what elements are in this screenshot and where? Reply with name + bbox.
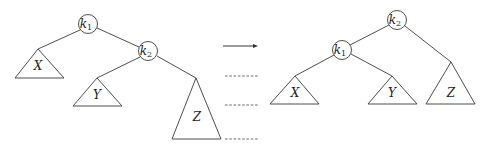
subtree-label-X: X — [290, 86, 300, 100]
subtree-label-Y: Y — [388, 86, 397, 100]
node-subscript: 1 — [341, 49, 346, 58]
subtree-label-Y: Y — [93, 88, 102, 102]
subtree-label-Z: Z — [192, 110, 202, 124]
edge-k2-Z — [157, 56, 196, 78]
rotation-diagram: X Y Z k1 k2 X Y Z — [0, 0, 491, 146]
node-label: k — [80, 17, 87, 31]
node-label: k — [389, 13, 396, 27]
subtree-label-X: X — [33, 59, 43, 73]
node-subscript: 2 — [147, 50, 152, 59]
edge-k1-Y — [351, 54, 392, 76]
node-label: k — [334, 43, 341, 57]
node-k1: k1 — [79, 15, 98, 34]
edge-k2-Z — [405, 26, 451, 62]
arrowhead-icon — [253, 44, 258, 48]
node-subscript: 2 — [396, 19, 401, 28]
node-subscript: 1 — [87, 23, 92, 32]
edge-k1-X — [295, 55, 334, 76]
tree-before: X Y Z k1 k2 — [15, 15, 221, 140]
subtree-Z — [172, 78, 221, 139]
node-label: k — [140, 44, 147, 58]
edge-k2-k1 — [350, 25, 389, 45]
tree-after: X Y Z k2 k1 — [270, 11, 475, 105]
node-k2: k2 — [139, 42, 158, 61]
transition-arrow — [223, 44, 258, 48]
level-guides — [225, 76, 258, 139]
node-k2: k2 — [388, 11, 407, 30]
subtree-label-Z: Z — [446, 86, 456, 100]
node-k1: k1 — [333, 41, 352, 60]
edge-k1-k2 — [97, 28, 139, 47]
edge-k2-Y — [97, 57, 140, 78]
edge-k1-X — [38, 30, 80, 49]
